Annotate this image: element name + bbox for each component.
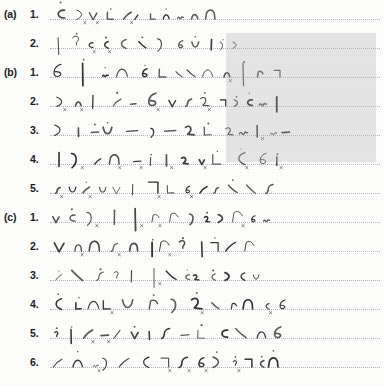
- shorthand-outline-strokes: [50, 0, 382, 29]
- line-number: 4.: [30, 153, 46, 165]
- shorthand-outline-strokes: [50, 87, 382, 116]
- line-number: 5.: [30, 182, 46, 194]
- shorthand-outline-strokes: [50, 145, 382, 174]
- shorthand-line-row: 5.: [0, 319, 384, 348]
- line-number: 1.: [30, 66, 46, 78]
- line-number: 2.: [30, 95, 46, 107]
- shorthand-outline-strokes: [50, 58, 382, 87]
- line-number: 1.: [30, 8, 46, 20]
- shorthand-line-row: 2.: [0, 232, 384, 261]
- shorthand-line-row: 4.: [0, 290, 384, 319]
- shorthand-line-row: (a)1.: [0, 0, 384, 29]
- group-label-a: (a): [4, 8, 28, 20]
- line-number: 2.: [30, 240, 46, 252]
- group-label-c: (c): [4, 211, 28, 223]
- line-number: 3.: [30, 124, 46, 136]
- shorthand-line-row: 6.: [0, 348, 384, 377]
- group-label-b: (b): [4, 66, 28, 78]
- shorthand-outline-strokes: [50, 116, 382, 145]
- shorthand-line-row: 3.: [0, 116, 384, 145]
- shorthand-outline-strokes: [50, 174, 382, 203]
- manuscript-page: (a)1.2.(b)1.2.3.4.5.(c)1.2.3.4.5.6. Hand…: [0, 0, 384, 386]
- line-number: 6.: [30, 356, 46, 368]
- shorthand-outline-strokes: [50, 290, 382, 319]
- shorthand-line-row: 5.: [0, 174, 384, 203]
- shorthand-outline-strokes: [50, 203, 382, 232]
- shorthand-line-row: (c)1.: [0, 203, 384, 232]
- line-number: 2.: [30, 37, 46, 49]
- shorthand-outline-strokes: [50, 319, 382, 348]
- shorthand-line-row: 2.: [0, 87, 384, 116]
- line-number: 3.: [30, 269, 46, 281]
- shorthand-line-row: 4.: [0, 145, 384, 174]
- shorthand-outline-strokes: [50, 348, 382, 377]
- line-number: 4.: [30, 298, 46, 310]
- shorthand-line-row: 3.: [0, 261, 384, 290]
- line-number: 5.: [30, 327, 46, 339]
- shorthand-outline-strokes: [50, 261, 382, 290]
- line-number: 1.: [30, 211, 46, 223]
- shorthand-outline-strokes: [50, 232, 382, 261]
- shorthand-line-row: 2.: [0, 29, 384, 58]
- shorthand-line-row: (b)1.: [0, 58, 384, 87]
- shorthand-outline-strokes: [50, 29, 382, 58]
